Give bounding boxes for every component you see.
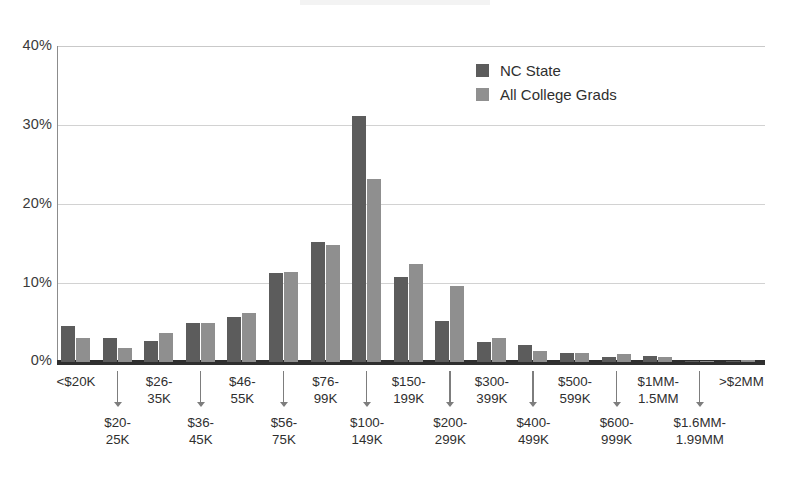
x-axis-tick-arrow-icon xyxy=(362,371,372,411)
bar-chart: 40% 30% 20% 10% 0% NC State All College … xyxy=(0,0,789,480)
bar-all-college-grads xyxy=(159,333,173,362)
x-axis-label: $36-45K xyxy=(165,415,237,448)
legend-label-nc-state: NC State xyxy=(500,62,561,79)
bar-group xyxy=(685,46,715,362)
bar-group xyxy=(643,46,673,362)
bar-nc-state xyxy=(726,361,740,363)
bar-nc-state xyxy=(186,323,200,363)
legend-swatch-icon-all-college-grads xyxy=(476,88,489,101)
x-axis-tick-arrow-icon xyxy=(528,371,538,411)
bar-all-college-grads xyxy=(326,245,340,362)
bar-group xyxy=(352,46,382,362)
bar-nc-state xyxy=(518,345,532,362)
x-axis-tick-arrow-icon xyxy=(279,371,289,411)
x-axis-labels: <$20K$20-25K$26-35K$36-45K$46-55K$56-75K… xyxy=(0,365,789,480)
y-tick-10: 10% xyxy=(4,274,52,290)
bar-all-college-grads xyxy=(617,354,631,362)
y-tick-40: 40% xyxy=(4,37,52,53)
legend-item-all-college-grads: All College Grads xyxy=(476,82,617,106)
bar-nc-state xyxy=(560,353,574,362)
bar-all-college-grads xyxy=(76,338,90,362)
bar-all-college-grads xyxy=(409,264,423,362)
bar-nc-state xyxy=(394,277,408,362)
x-axis-label: $46-55K xyxy=(206,374,278,407)
x-axis-tick-arrow-icon xyxy=(113,371,123,411)
x-axis-label: <$20K xyxy=(40,374,112,391)
bar-group xyxy=(227,46,257,362)
x-axis-tick-arrow-icon xyxy=(695,371,705,411)
bar-all-college-grads xyxy=(284,272,298,362)
x-axis-tick-arrow-icon xyxy=(196,371,206,411)
bar-group xyxy=(311,46,341,362)
bar-group xyxy=(726,46,756,362)
bar-nc-state xyxy=(602,357,616,362)
bar-nc-state xyxy=(352,116,366,362)
bar-all-college-grads xyxy=(118,348,132,362)
bar-all-college-grads xyxy=(201,323,215,363)
x-axis-label: $76-99K xyxy=(290,374,362,407)
bar-nc-state xyxy=(643,356,657,362)
bar-all-college-grads xyxy=(533,351,547,362)
bars-container xyxy=(58,46,765,362)
x-axis-label: $200-299K xyxy=(414,415,486,448)
legend: NC State All College Grads xyxy=(476,58,617,106)
y-tick-30: 30% xyxy=(4,116,52,132)
bar-all-college-grads xyxy=(367,179,381,362)
x-axis-label: $300-399K xyxy=(456,374,528,407)
x-axis-tick-arrow-icon xyxy=(612,371,622,411)
x-axis-label: $20-25K xyxy=(82,415,154,448)
bar-group xyxy=(103,46,133,362)
bar-nc-state xyxy=(311,242,325,362)
bar-all-college-grads xyxy=(575,353,589,362)
x-axis-label: $500-599K xyxy=(539,374,611,407)
bar-nc-state xyxy=(685,361,699,363)
bar-nc-state xyxy=(61,326,75,362)
bar-nc-state xyxy=(269,273,283,362)
x-axis-label: $600-999K xyxy=(581,415,653,448)
bar-all-college-grads xyxy=(450,286,464,362)
bar-nc-state xyxy=(435,321,449,362)
bar-group xyxy=(269,46,299,362)
bar-nc-state xyxy=(477,342,491,362)
bar-nc-state xyxy=(227,317,241,362)
bar-all-college-grads xyxy=(741,360,755,362)
x-axis-label: $1.6MM-1.99MM xyxy=(664,415,736,448)
legend-swatch-icon-nc-state xyxy=(476,64,489,77)
bar-group xyxy=(435,46,465,362)
legend-label-all-college-grads: All College Grads xyxy=(500,86,617,103)
bar-group xyxy=(186,46,216,362)
x-axis-label: $100-149K xyxy=(331,415,403,448)
bar-group xyxy=(144,46,174,362)
bar-group xyxy=(394,46,424,362)
x-axis-label: $400-499K xyxy=(497,415,569,448)
bar-all-college-grads xyxy=(492,338,506,362)
x-axis-label: $1MM-1.5MM xyxy=(622,374,694,407)
y-tick-20: 20% xyxy=(4,195,52,211)
x-axis-label: $56-75K xyxy=(248,415,320,448)
legend-item-nc-state: NC State xyxy=(476,58,617,82)
bar-nc-state xyxy=(103,338,117,362)
x-axis-label: $150-199K xyxy=(373,374,445,407)
scan-artifact xyxy=(300,0,490,5)
bar-nc-state xyxy=(144,341,158,362)
bar-all-college-grads xyxy=(658,357,672,362)
x-axis-tick-arrow-icon xyxy=(445,371,455,411)
bar-all-college-grads xyxy=(242,313,256,362)
x-axis-label: $26-35K xyxy=(123,374,195,407)
x-axis-label: >$2MM xyxy=(705,374,777,391)
bar-group xyxy=(61,46,91,362)
bar-all-college-grads xyxy=(700,361,714,363)
